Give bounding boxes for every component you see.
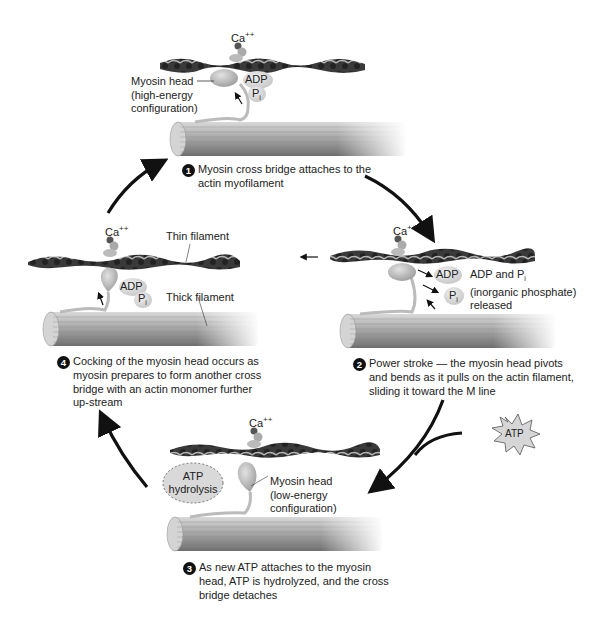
calcium-label-1: Ca++ [231,30,254,44]
pi-label-1: Pi [252,87,261,101]
cross-bridge-cycle-diagram: Ca++ Myosin head (high-energy configurat… [0,0,596,625]
cycle-arrow-3-to-4 [103,418,147,487]
thick-filament-label: Thick filament [166,291,234,305]
thin-filament-1 [160,59,365,74]
pi-label-4: Pi [138,292,147,306]
myosin-head-cocked [101,267,118,292]
pi-label-2: Pi [449,289,458,303]
atp-starburst-label: ATP [505,428,524,439]
thin-filament-2 [330,248,535,264]
cycle-arrow-4-to-1 [108,163,160,213]
myosin-head-high-energy-label: Myosin head (high-energy configuration) [131,75,198,116]
step-3-badge: 3 [183,562,196,575]
myosin-head-low-energy-label: Myosin head (low-energy configuration) [270,475,337,516]
adp-label-4: ADP [120,280,143,292]
thin-filament-3 [170,442,380,458]
step-2-badge: 2 [353,358,366,371]
step-1-caption: 1Myosin cross bridge attaches to the act… [182,163,402,191]
step-2-caption: 2Power stroke — the myosin head pivots a… [353,357,583,398]
calcium-label-4: Ca++ [105,224,128,238]
calcium-label-2: Ca++ [393,223,416,237]
adp-label-1: ADP [245,73,268,85]
myosin-head-high-energy [210,69,238,87]
step-4-badge: 4 [57,356,70,369]
adp-label-2: ADP [436,268,459,280]
myosin-head-low-energy [238,462,257,492]
atp-join-arrow [415,433,462,455]
clipped-figure-caption [250,619,596,625]
adp-pi-released-label: ADP and Pi (inorganic phosphate) release… [470,268,576,313]
thin-filament-label: Thin filament [166,230,229,244]
cycle-arrow-2-to-3 [375,400,443,488]
myosin-head-power-stroke [388,263,416,281]
atp-hydrolysis-label: ATP hydrolysis [165,470,221,496]
step-4-caption: 4Cocking of the myosin head occurs as my… [57,355,267,410]
step-1-badge: 1 [182,164,195,177]
calcium-label-3: Ca++ [249,415,272,429]
step-3-caption: 3As new ATP attaches to the myosin head,… [183,561,413,602]
thin-filament-4 [28,254,240,270]
